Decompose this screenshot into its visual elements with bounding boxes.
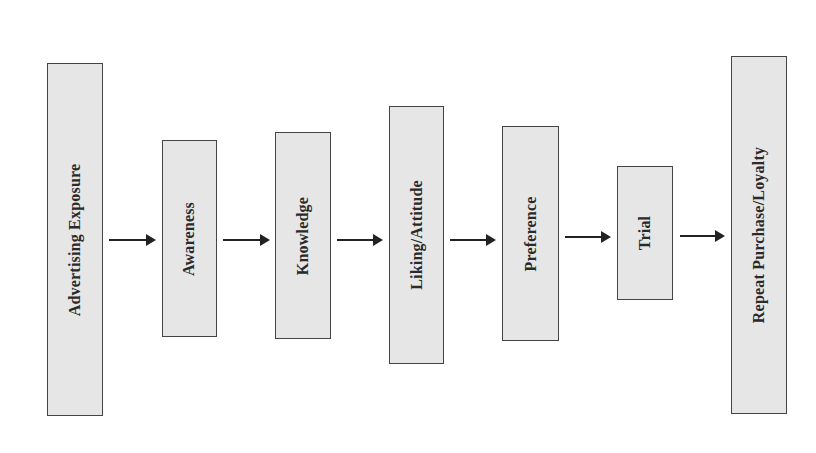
stage-label: Liking/Attitude (408, 180, 426, 290)
arrow-icon (680, 235, 723, 237)
arrow-icon (337, 239, 381, 241)
stage-repeat-purchase-loyalty: Repeat Purchase/Loyalty (731, 56, 787, 414)
stage-label: Repeat Purchase/Loyalty (750, 147, 768, 323)
arrow-icon (223, 239, 268, 241)
stage-label: Preference (522, 196, 540, 271)
arrow-icon (565, 236, 609, 238)
arrow-icon (109, 239, 154, 241)
stage-label: Awareness (181, 201, 199, 275)
stage-label: Knowledge (294, 196, 312, 274)
stage-label: Advertising Exposure (66, 163, 84, 316)
stage-knowledge: Knowledge (275, 132, 331, 339)
stage-liking-attitude: Liking/Attitude (389, 106, 444, 364)
stage-preference: Preference (502, 126, 559, 341)
stage-advertising-exposure: Advertising Exposure (47, 63, 103, 416)
arrow-icon (450, 239, 494, 241)
stage-awareness: Awareness (162, 140, 217, 337)
stage-trial: Trial (617, 166, 673, 300)
stage-label: Trial (636, 216, 654, 250)
